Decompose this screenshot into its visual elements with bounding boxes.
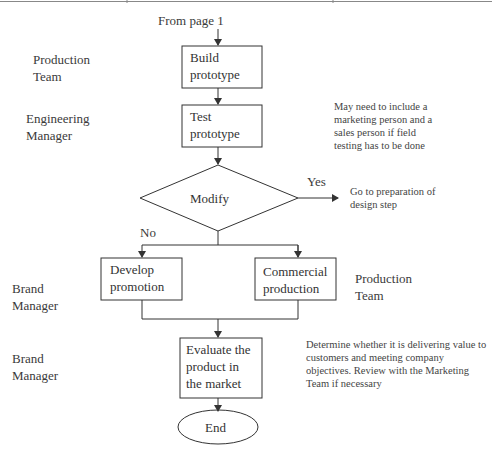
no-label: No xyxy=(140,224,156,241)
role-label-commercial: Production Team xyxy=(355,270,412,304)
note-yes-target: Go to preparation of design step xyxy=(350,185,435,211)
modify-text: Modify xyxy=(190,190,229,207)
evaluate-text: Evaluate the product in the market xyxy=(186,341,251,392)
role-label-promotion: Brand Manager xyxy=(12,280,58,314)
end-text: End xyxy=(205,419,226,436)
entry-label: From page 1 xyxy=(158,12,224,29)
test-prototype-text: Test prototype xyxy=(190,108,240,142)
role-label-build: Production Team xyxy=(33,51,90,85)
develop-promotion-text: Develop promotion xyxy=(110,261,164,295)
commercial-production-text: Commercial production xyxy=(263,263,327,297)
build-prototype-text: Build prototype xyxy=(190,49,240,83)
yes-label: Yes xyxy=(307,173,326,190)
role-label-test: Engineering Manager xyxy=(26,110,90,144)
note-evaluate: Determine whether it is delivering value… xyxy=(306,338,486,390)
role-label-evaluate: Brand Manager xyxy=(12,350,58,384)
note-test: May need to include a marketing person a… xyxy=(334,100,432,152)
